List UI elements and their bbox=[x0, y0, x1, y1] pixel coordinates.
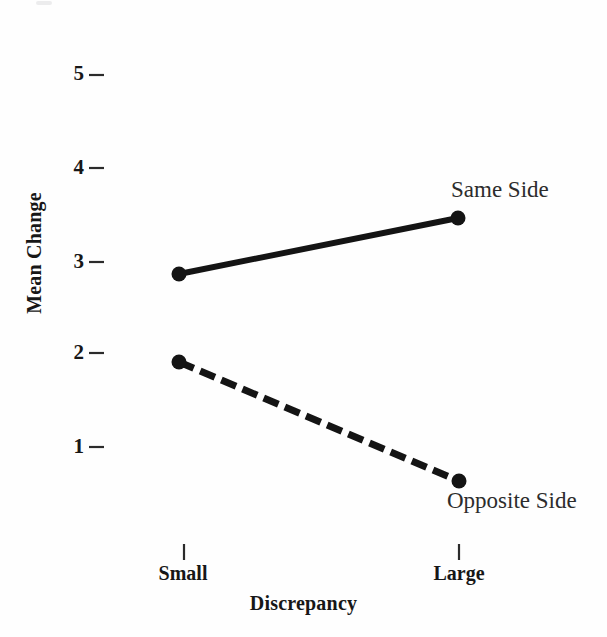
y-tick-label-5: 5 bbox=[58, 63, 84, 84]
y-axis-tick-marks bbox=[89, 75, 104, 447]
series-line-opposite-side bbox=[179, 362, 459, 481]
y-tick-label-2: 2 bbox=[58, 342, 84, 363]
y-tick-label-3: 3 bbox=[58, 251, 84, 272]
x-axis-title: Discrepancy bbox=[0, 592, 607, 615]
data-point-same-side-large bbox=[451, 211, 466, 226]
series-line-same-side bbox=[179, 218, 458, 274]
x-axis-tick-marks bbox=[184, 544, 459, 560]
y-tick-label-1: 1 bbox=[58, 436, 84, 457]
series-label-same-side: Same Side bbox=[451, 178, 549, 201]
data-point-same-side-small bbox=[172, 267, 187, 282]
data-point-opposite-side-large bbox=[452, 474, 467, 489]
x-tick-label-small: Small bbox=[123, 563, 243, 583]
y-tick-label-4: 4 bbox=[58, 157, 84, 178]
y-axis-title-wrapper: Mean Change bbox=[21, 183, 47, 323]
series-label-opposite-side: Opposite Side bbox=[447, 489, 577, 512]
line-chart-plot bbox=[0, 0, 607, 637]
chart-figure: 5 4 3 2 1 Small Large Discrepancy Mean C… bbox=[0, 0, 607, 637]
data-point-opposite-side-small bbox=[172, 355, 187, 370]
y-axis-title: Mean Change bbox=[21, 183, 47, 323]
x-tick-label-large: Large bbox=[399, 563, 519, 583]
